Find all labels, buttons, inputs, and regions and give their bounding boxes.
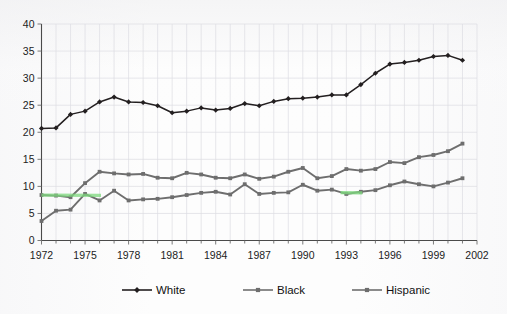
y-axis-tick-label: 15	[23, 153, 35, 165]
data-point-marker	[388, 183, 392, 187]
data-point-marker	[329, 92, 334, 97]
x-axis-tick-label: 2002	[465, 249, 489, 261]
data-point-marker	[199, 173, 203, 177]
legend-swatch-marker	[256, 288, 260, 292]
data-point-marker	[112, 171, 116, 175]
x-axis-tick-label: 1993	[335, 249, 359, 261]
x-axis-tick-label: 1975	[73, 249, 97, 261]
data-point-marker	[446, 181, 450, 185]
data-point-marker	[243, 182, 247, 186]
data-point-marker	[286, 96, 291, 101]
y-axis-tick-label: 35	[23, 45, 35, 57]
data-point-marker	[417, 182, 421, 186]
legend-label: White	[156, 284, 185, 296]
grid-lines	[42, 24, 478, 241]
data-point-marker	[271, 99, 276, 104]
y-axis-tick-label: 30	[23, 72, 35, 84]
data-point-marker	[184, 109, 189, 114]
data-point-marker	[127, 199, 131, 203]
data-point-marker	[416, 58, 421, 63]
legend-item-white[interactable]: White	[122, 284, 185, 296]
line-chart: 4035302520151050 19721975197819811984198…	[0, 0, 507, 314]
data-point-marker	[301, 183, 305, 187]
legend-item-hispanic[interactable]: Hispanic	[352, 284, 430, 296]
y-axis-tick-label: 20	[23, 126, 35, 138]
data-point-marker	[141, 172, 145, 176]
data-point-marker	[185, 193, 189, 197]
data-point-marker	[344, 167, 348, 171]
data-point-marker	[83, 181, 87, 185]
x-axis-tick-label: 1978	[117, 249, 141, 261]
series-hispanic	[40, 176, 465, 223]
data-point-marker	[257, 177, 261, 181]
x-axis-tick-label: 1972	[30, 249, 54, 261]
y-axis-tick-label: 25	[23, 99, 35, 111]
data-point-marker	[445, 53, 450, 58]
data-point-marker	[432, 184, 436, 188]
legend-item-black[interactable]: Black	[243, 284, 305, 296]
data-point-marker	[156, 197, 160, 201]
data-point-marker	[185, 171, 189, 175]
x-axis-tick-label: 1984	[204, 249, 228, 261]
legend-swatch-marker	[365, 288, 369, 292]
data-point-marker	[170, 195, 174, 199]
data-point-marker	[330, 174, 334, 178]
data-point-marker	[460, 58, 465, 63]
axes	[38, 24, 478, 245]
y-axis-tick-label: 0	[29, 234, 35, 246]
data-point-marker	[257, 192, 261, 196]
data-point-marker	[272, 191, 276, 195]
data-point-marker	[228, 176, 232, 180]
data-point-marker	[98, 170, 102, 174]
data-point-marker	[199, 191, 203, 195]
x-axis-tick-labels: 1972197519781981198419871990199319961999…	[30, 249, 489, 261]
data-point-marker	[446, 149, 450, 153]
x-axis-tick-label: 1990	[291, 249, 315, 261]
chart-legend: WhiteBlackHispanic	[122, 284, 430, 296]
data-point-marker	[300, 96, 305, 101]
data-point-marker	[301, 166, 305, 170]
data-point-marker	[461, 176, 465, 180]
y-axis-tick-label: 10	[23, 180, 35, 192]
y-axis-tick-label: 5	[29, 207, 35, 219]
data-point-marker	[315, 189, 319, 193]
data-point-marker	[170, 110, 175, 115]
legend-label: Hispanic	[386, 284, 430, 296]
data-point-marker	[40, 219, 44, 223]
data-point-marker	[286, 170, 290, 174]
data-point-marker	[257, 103, 262, 108]
x-axis-tick-label: 1996	[378, 249, 402, 261]
data-point-marker	[214, 190, 218, 194]
data-point-marker	[359, 169, 363, 173]
data-point-marker	[170, 176, 174, 180]
data-point-marker	[199, 105, 204, 110]
data-point-marker	[330, 188, 334, 192]
data-point-marker	[373, 188, 377, 192]
x-axis-tick-label: 1981	[160, 249, 184, 261]
data-point-marker	[243, 173, 247, 177]
data-point-marker	[417, 155, 421, 159]
data-point-marker	[155, 103, 160, 108]
data-point-marker	[111, 94, 116, 99]
data-point-marker	[39, 126, 44, 131]
data-point-marker	[98, 199, 102, 203]
data-point-marker	[431, 54, 436, 59]
series-black	[40, 142, 465, 199]
data-point-marker	[402, 60, 407, 65]
series-line-hispanic	[42, 178, 463, 221]
data-point-marker	[461, 142, 465, 146]
data-point-marker	[69, 208, 73, 212]
data-point-marker	[388, 160, 392, 164]
data-point-marker	[141, 100, 146, 105]
data-point-marker	[315, 176, 319, 180]
data-point-marker	[54, 209, 58, 213]
x-axis-tick-label: 1987	[248, 249, 272, 261]
data-point-marker	[228, 106, 233, 111]
data-point-marker	[373, 167, 377, 171]
x-axis-tick-label: 1999	[422, 249, 446, 261]
legend-swatch-marker	[134, 287, 140, 293]
data-point-marker	[403, 161, 407, 165]
series-white	[39, 53, 465, 131]
series-line-white	[42, 55, 463, 128]
data-point-marker	[286, 190, 290, 194]
